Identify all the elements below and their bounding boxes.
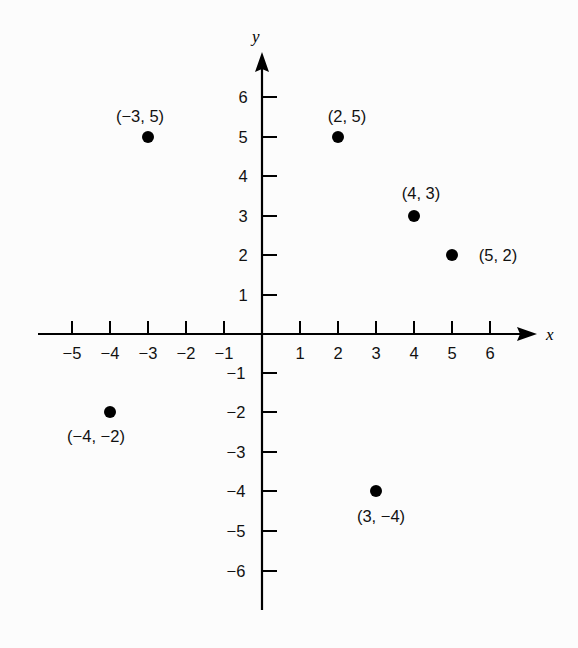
x-tick-label: 1 xyxy=(295,345,304,362)
data-point xyxy=(370,485,382,497)
x-tick-label: −1 xyxy=(215,345,234,362)
x-tick-label: 5 xyxy=(447,345,456,362)
y-tick-label: −3 xyxy=(227,444,246,461)
y-tick-label: 4 xyxy=(238,168,247,185)
y-tick-label: 3 xyxy=(238,208,247,225)
y-tick-label: 2 xyxy=(238,247,247,264)
x-tick-label: −3 xyxy=(139,345,158,362)
y-tick-label: −6 xyxy=(227,563,246,580)
x-tick-label: −2 xyxy=(177,345,196,362)
data-point-label: (−4, −2) xyxy=(67,428,125,445)
x-axis-label: x xyxy=(546,326,554,343)
y-tick-label: −1 xyxy=(227,365,246,382)
x-axis-ticks xyxy=(72,321,490,334)
x-tick-label: −4 xyxy=(101,345,120,362)
y-tick-label: −5 xyxy=(227,523,246,540)
data-point-label: (−3, 5) xyxy=(116,108,164,125)
coordinate-plane-figure: x y −5 −4 −3 −2 −1 1 2 3 4 5 6 6 5 4 3 2… xyxy=(0,0,578,648)
y-tick-label: −4 xyxy=(227,483,246,500)
data-point-label: (2, 5) xyxy=(328,108,367,125)
data-point-label: (4, 3) xyxy=(402,185,441,202)
data-point-label: (3, −4) xyxy=(357,508,405,525)
axes-svg xyxy=(0,0,578,648)
data-point-label: (5, 2) xyxy=(479,247,518,264)
y-axis-arrowhead xyxy=(255,52,269,72)
data-point xyxy=(332,131,344,143)
y-tick-label: 5 xyxy=(238,129,247,146)
y-axis-label: y xyxy=(252,28,260,45)
x-tick-label: −5 xyxy=(63,345,82,362)
x-axis-arrowhead xyxy=(517,327,537,341)
x-tick-label: 3 xyxy=(371,345,380,362)
x-tick-label: 4 xyxy=(409,345,418,362)
y-tick-label: 6 xyxy=(238,89,247,106)
data-point xyxy=(408,210,420,222)
data-point xyxy=(104,406,116,418)
y-tick-label: 1 xyxy=(238,287,247,304)
data-point xyxy=(142,131,154,143)
data-point xyxy=(446,249,458,261)
x-tick-label: 6 xyxy=(485,345,494,362)
y-tick-label: −2 xyxy=(227,404,246,421)
x-tick-label: 2 xyxy=(333,345,342,362)
